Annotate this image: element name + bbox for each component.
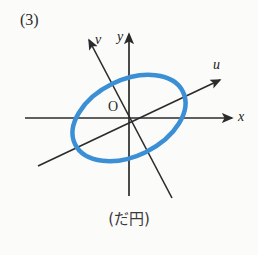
figure-page: (3) x y u v O (だ円) [0,0,258,255]
origin-label: O [108,100,118,114]
v-axis-label: v [95,33,101,47]
y-axis-label: y [117,30,123,44]
u-axis-label: u [213,58,220,72]
figure-caption: (だ円) [0,212,258,227]
x-axis-label: x [238,110,244,124]
v-axis-line [89,40,172,198]
